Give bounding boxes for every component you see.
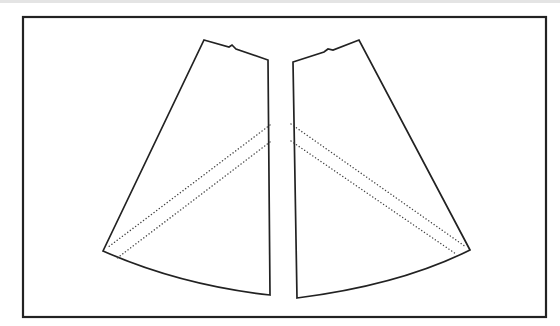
right-skirt-panel	[291, 40, 470, 298]
left-skirt-panel	[103, 40, 270, 295]
pattern-diagram	[0, 0, 560, 326]
diagram-frame	[23, 17, 546, 317]
right-panel-outline	[293, 40, 470, 298]
left-panel-outline	[103, 40, 270, 295]
